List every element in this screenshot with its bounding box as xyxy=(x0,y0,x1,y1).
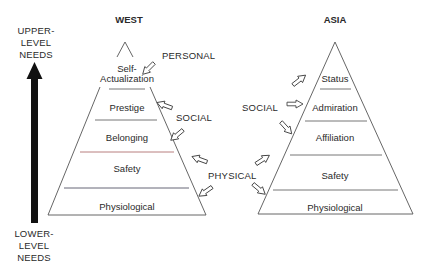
arrow-social-status-icon xyxy=(291,72,309,88)
arrow-physical-safety-asia-icon xyxy=(254,152,272,167)
asia-title: ASIA xyxy=(324,14,347,25)
west-tier-physiological: Physiological xyxy=(99,201,154,212)
personal-label: PERSONAL xyxy=(162,50,215,61)
asia-tier-physiological: Physiological xyxy=(307,202,362,213)
physical-label: PHYSICAL xyxy=(208,170,257,181)
arrow-physical-physiological-west-icon xyxy=(197,184,215,200)
lower-level-label-1: LOWER- xyxy=(14,228,53,239)
arrow-physical-safety-west-icon xyxy=(191,153,209,166)
asia-tier-admiration: Admiration xyxy=(312,102,357,113)
asia-pyramid: ASIA Status Admiration Affiliation Safet… xyxy=(258,14,413,214)
social-label-asia: SOCIAL xyxy=(242,102,278,113)
arrow-social-admiration-icon xyxy=(287,100,303,108)
west-tier-self-actualization-2: Actualization xyxy=(100,73,154,84)
west-title: WEST xyxy=(115,14,143,25)
upper-level-label-1: UPPER- xyxy=(17,25,54,36)
arrow-physical-physiological-asia-icon xyxy=(250,181,267,197)
upper-level-label-3: NEEDS xyxy=(19,49,53,60)
asia-outline xyxy=(258,42,413,214)
social-label-west: SOCIAL xyxy=(176,112,212,123)
lower-level-label-3: NEEDS xyxy=(17,252,51,263)
west-tier-belonging: Belonging xyxy=(106,132,148,143)
asia-tier-status: Status xyxy=(322,73,349,84)
west-tier-prestige: Prestige xyxy=(110,102,145,113)
arrow-social-affiliation-icon xyxy=(278,119,295,136)
needs-hierarchy-diagram: UPPER- LEVEL NEEDS LOWER- LEVEL NEEDS WE… xyxy=(0,0,427,276)
upper-level-label-2: LEVEL xyxy=(21,37,52,48)
needs-axis: UPPER- LEVEL NEEDS LOWER- LEVEL NEEDS xyxy=(14,25,54,263)
west-apex xyxy=(117,42,133,57)
asia-tier-safety: Safety xyxy=(322,170,349,181)
west-tier-safety: Safety xyxy=(114,163,141,174)
up-arrow-icon xyxy=(27,62,43,223)
lower-level-label-2: LEVEL xyxy=(19,240,50,251)
asia-tier-affiliation: Affiliation xyxy=(316,132,354,143)
